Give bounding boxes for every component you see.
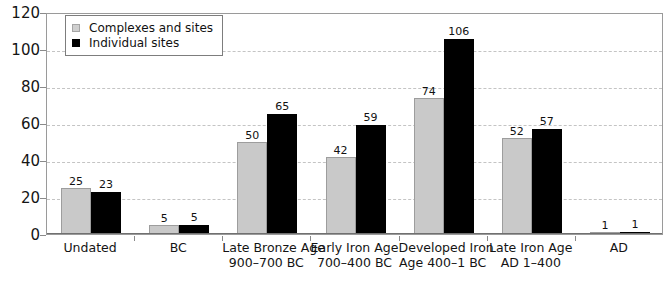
x-axis-label-line: Developed Iron	[399, 240, 487, 255]
bar[interactable]: 25	[61, 188, 91, 234]
bar-value-label: 74	[422, 86, 436, 97]
bar[interactable]: 50	[237, 142, 267, 234]
bar[interactable]: 59	[356, 125, 386, 234]
bar-value-label: 52	[510, 126, 524, 137]
x-axis-label-line: Late Bronze Age	[222, 240, 310, 255]
bar[interactable]: 65	[267, 114, 297, 234]
x-axis-label: BC	[134, 240, 222, 255]
bar[interactable]: 42	[326, 157, 356, 234]
x-axis-label: Early Iron Age700–400 BC	[310, 240, 398, 270]
x-axis-label-line: 700–400 BC	[310, 255, 398, 270]
y-tick-label: 120	[2, 6, 40, 21]
bar-chart: 020406080100120 252355506542597410652571…	[0, 0, 671, 284]
y-tick-mark	[40, 235, 46, 236]
bar-value-label: 59	[364, 112, 378, 123]
bar[interactable]: 52	[502, 138, 532, 234]
x-axis-label-line: Early Iron Age	[310, 240, 398, 255]
x-axis-label-line: 900–700 BC	[222, 255, 310, 270]
bar-value-label: 1	[631, 219, 638, 230]
bar-value-label: 5	[191, 212, 198, 223]
x-axis-label: Developed IronAge 400–1 BC	[399, 240, 487, 270]
legend-item: Individual sites	[72, 35, 213, 50]
bar-value-label: 50	[245, 130, 259, 141]
x-axis-label: Late Bronze Age900–700 BC	[222, 240, 310, 270]
x-axis-label-line: BC	[134, 240, 222, 255]
x-axis-label: AD	[575, 240, 663, 255]
bar-group: 74106	[414, 14, 474, 234]
y-tick-label: 20	[2, 191, 40, 206]
bar-group: 4259	[326, 14, 386, 234]
x-axis-label-line: Late Iron Age	[487, 240, 575, 255]
x-axis-label-line: AD	[575, 240, 663, 255]
bar-value-label: 106	[448, 26, 469, 37]
axis-baseline	[47, 233, 662, 234]
bar[interactable]: 74	[414, 98, 444, 234]
bar[interactable]: 23	[91, 192, 121, 234]
bar-group: 5257	[502, 14, 562, 234]
bar-value-label: 65	[275, 101, 289, 112]
bar-value-label: 23	[99, 179, 113, 190]
legend-label-complexes-and-sites: Complexes and sites	[89, 22, 213, 34]
bar-value-label: 57	[540, 116, 554, 127]
x-axis-label-line: Age 400–1 BC	[399, 255, 487, 270]
legend-swatch-individual-sites	[72, 39, 80, 47]
x-axis-label: Undated	[46, 240, 134, 255]
y-tick-label: 40	[2, 154, 40, 169]
chart-legend: Complexes and sites Individual sites	[65, 15, 223, 56]
bar-value-label: 5	[161, 213, 168, 224]
x-axis-label-line: AD 1–400	[487, 255, 575, 270]
legend-item: Complexes and sites	[72, 20, 213, 35]
y-axis: 020406080100120	[0, 0, 40, 248]
legend-label-individual-sites: Individual sites	[89, 37, 179, 49]
y-tick-label: 0	[2, 228, 40, 243]
bar-group: 5065	[237, 14, 297, 234]
bar[interactable]: 106	[444, 39, 474, 234]
bar-value-label: 1	[601, 220, 608, 231]
y-tick-label: 60	[2, 117, 40, 132]
bar-value-label: 25	[69, 176, 83, 187]
y-tick-label: 100	[2, 43, 40, 58]
x-axis-label: Late Iron AgeAD 1–400	[487, 240, 575, 270]
bar-group: 11	[590, 14, 650, 234]
legend-swatch-complexes-and-sites	[72, 24, 80, 32]
y-tick-label: 80	[2, 80, 40, 95]
x-axis-labels: UndatedBCLate Bronze Age900–700 BCEarly …	[46, 240, 663, 284]
bar[interactable]: 57	[532, 129, 562, 234]
x-axis-label-line: Undated	[46, 240, 134, 255]
bar-value-label: 42	[334, 145, 348, 156]
